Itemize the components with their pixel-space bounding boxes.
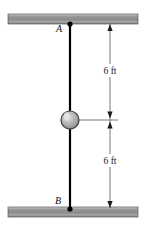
lower-support-beam: [8, 207, 138, 217]
point-a-label: A: [55, 23, 63, 34]
dimension-lower-label: 6 ft: [104, 156, 117, 166]
figure-canvas: A B 6 ft 6 ft: [0, 0, 145, 225]
mechanics-figure: A B 6 ft 6 ft: [0, 0, 145, 225]
upper-support-beam-body: [8, 14, 138, 24]
dimension-arrow-mid-up: [107, 122, 112, 129]
point-a-dot: [67, 21, 72, 26]
dimension-arrow-top: [107, 24, 112, 31]
dimension-upper-label: 6 ft: [104, 66, 117, 76]
upper-support-beam: [8, 14, 138, 24]
dimension-lower-label-group: 6 ft: [99, 154, 121, 167]
collar-ball-highlight: [64, 112, 69, 120]
lower-support-beam-body: [8, 207, 138, 217]
dimension-group: [79, 24, 118, 208]
dimension-arrow-mid-down: [107, 112, 112, 119]
sliding-collar-ball: [61, 111, 79, 129]
point-b-label: B: [55, 195, 61, 206]
point-b-dot: [67, 206, 72, 211]
collar-ball-body: [61, 111, 79, 129]
dimension-upper-label-group: 6 ft: [99, 64, 121, 77]
